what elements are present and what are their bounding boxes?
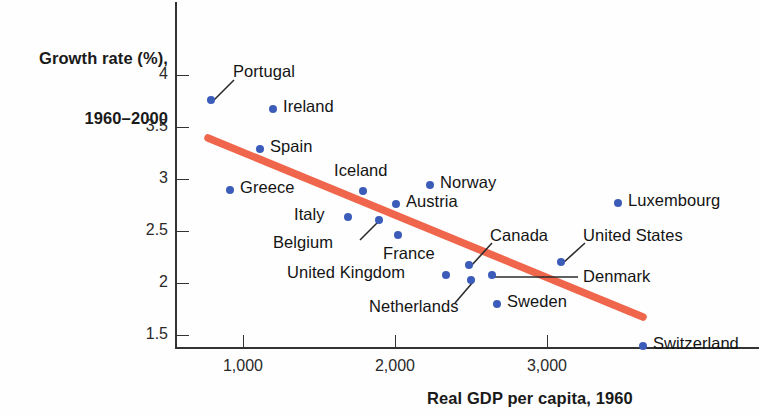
label-denmark: Denmark — [583, 267, 650, 286]
leader-canada — [471, 243, 492, 266]
label-united-kingdom: United Kingdom — [287, 263, 405, 282]
data-point-united-kingdom[interactable] — [442, 271, 450, 279]
data-point-luxembourg[interactable] — [614, 199, 622, 207]
data-point-italy[interactable] — [344, 213, 352, 221]
label-austria: Austria — [406, 192, 458, 211]
data-point-united-states[interactable] — [557, 258, 565, 266]
data-point-belgium[interactable] — [375, 216, 383, 224]
label-norway: Norway — [440, 173, 496, 192]
data-point-austria[interactable] — [392, 200, 400, 208]
label-united-states: United States — [583, 226, 683, 245]
data-point-norway[interactable] — [426, 181, 434, 189]
leader-united-states — [563, 243, 585, 263]
label-switzerland: Switzerland — [653, 334, 739, 353]
data-point-spain[interactable] — [256, 145, 264, 153]
data-point-portugal[interactable] — [207, 96, 215, 104]
leader-belgium — [360, 221, 379, 240]
data-point-ireland[interactable] — [269, 105, 277, 113]
label-canada: Canada — [490, 226, 548, 245]
label-belgium: Belgium — [273, 233, 333, 252]
label-netherlands: Netherlands — [369, 297, 459, 316]
data-point-iceland[interactable] — [359, 187, 367, 195]
label-sweden: Sweden — [507, 292, 567, 311]
label-iceland: Iceland — [334, 161, 388, 180]
data-point-sweden[interactable] — [493, 300, 501, 308]
leader-portugal — [213, 80, 234, 101]
label-luxembourg: Luxembourg — [628, 191, 720, 210]
data-point-denmark[interactable] — [488, 271, 496, 279]
label-greece: Greece — [240, 178, 294, 197]
label-italy: Italy — [294, 205, 325, 224]
data-point-switzerland[interactable] — [639, 342, 647, 350]
data-point-france[interactable] — [394, 231, 402, 239]
label-ireland: Ireland — [283, 97, 334, 116]
scatter-plot-figure: Growth rate (%), 1960–2000 4 3.5 3 2.5 2… — [0, 0, 759, 417]
data-point-canada[interactable] — [465, 261, 473, 269]
data-point-netherlands[interactable] — [467, 276, 475, 284]
label-spain: Spain — [270, 137, 312, 156]
label-france: France — [383, 244, 435, 263]
label-portugal: Portugal — [233, 62, 295, 81]
data-point-greece[interactable] — [226, 186, 234, 194]
